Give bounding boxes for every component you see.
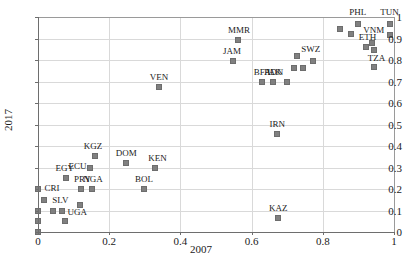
data-point[interactable]	[274, 131, 280, 137]
x-tick-mark	[38, 232, 39, 235]
y-tick-mark	[35, 82, 38, 83]
gridline-horizontal	[38, 125, 394, 126]
gridline-horizontal	[38, 82, 394, 83]
x-tick-mark	[394, 232, 395, 235]
data-point-label: IDN	[255, 68, 295, 77]
x-axis-line	[38, 232, 395, 233]
y-tick-mark	[35, 60, 38, 61]
data-point-label: UGA	[57, 208, 97, 217]
gridline-horizontal	[38, 60, 394, 61]
data-point[interactable]	[156, 84, 162, 90]
data-point[interactable]	[92, 153, 98, 159]
data-point-label: ECU	[58, 162, 98, 171]
gridline-horizontal	[38, 39, 394, 40]
y-tick-label: 0.9	[368, 34, 402, 45]
y-tick-mark	[35, 125, 38, 126]
y-tick-label: 0.5	[368, 120, 402, 131]
y-tick-mark	[35, 211, 38, 212]
data-point-label: KAZ	[258, 204, 298, 213]
y-tick-mark	[35, 103, 38, 104]
x-axis-title: 2007	[0, 243, 402, 255]
data-point-label: VEN	[139, 73, 179, 82]
data-point[interactable]	[275, 215, 281, 221]
y-axis-title: 2017	[2, 100, 14, 140]
y-tick-mark	[35, 189, 38, 190]
data-point[interactable]	[152, 165, 158, 171]
data-point[interactable]	[141, 186, 147, 192]
gridline-vertical	[180, 17, 181, 232]
data-point[interactable]	[235, 37, 241, 43]
y-axis-line	[38, 17, 39, 233]
y-tick-label: 0.3	[368, 163, 402, 174]
gridline-horizontal	[38, 103, 394, 104]
data-point[interactable]	[123, 160, 129, 166]
y-tick-label: 0.6	[368, 98, 402, 109]
data-point[interactable]	[300, 65, 306, 71]
data-point[interactable]	[310, 58, 316, 64]
y-tick-label: 1	[368, 12, 402, 23]
y-tick-label: 0.4	[368, 141, 402, 152]
plot-frame-top	[38, 17, 395, 18]
data-point-label: SLV	[40, 196, 80, 205]
data-point-label: BOL	[124, 175, 164, 184]
y-tick-label: 0.8	[368, 55, 402, 66]
x-tick-mark	[323, 232, 324, 235]
data-point[interactable]	[259, 79, 265, 85]
y-tick-label: 0.7	[368, 77, 402, 88]
data-point-label: MMR	[219, 26, 259, 35]
gridline-vertical	[109, 17, 110, 232]
data-point[interactable]	[50, 208, 56, 214]
y-tick-mark	[35, 168, 38, 169]
y-tick-mark	[35, 146, 38, 147]
data-point-label: SWZ	[291, 45, 331, 54]
x-tick-mark	[252, 232, 253, 235]
data-point[interactable]	[270, 79, 276, 85]
x-tick-mark	[109, 232, 110, 235]
data-point[interactable]	[62, 218, 68, 224]
data-point[interactable]	[78, 186, 84, 192]
data-point[interactable]	[363, 44, 369, 50]
y-tick-label: 0.2	[368, 184, 402, 195]
y-tick-mark	[35, 17, 38, 18]
data-point[interactable]	[230, 58, 236, 64]
data-point-label: JAM	[212, 47, 252, 56]
y-tick-mark	[35, 39, 38, 40]
data-point-label: IRN	[257, 120, 297, 129]
data-point-label: KEN	[137, 154, 177, 163]
plot-area: CRISLVUGAEGYPRYECUNGAKGZDOMBOLKENVENJAMM…	[38, 17, 394, 232]
y-tick-label: 0.1	[368, 206, 402, 217]
x-tick-mark	[180, 232, 181, 235]
data-point[interactable]	[284, 79, 290, 85]
data-point[interactable]	[337, 26, 343, 32]
data-point[interactable]	[89, 186, 95, 192]
data-point-label: NGA	[73, 175, 113, 184]
